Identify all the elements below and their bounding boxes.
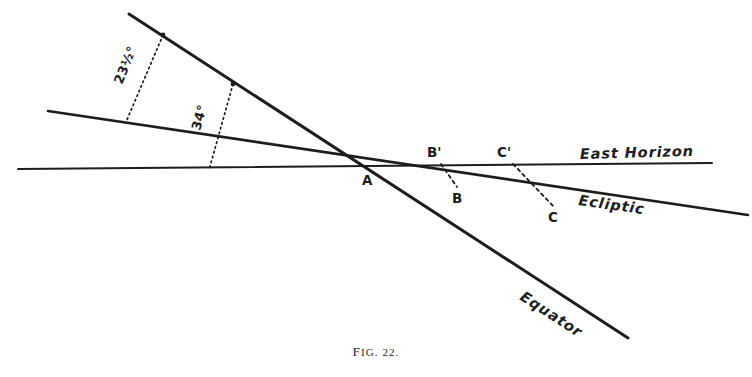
equator-tick-dot-23-half	[161, 33, 166, 38]
point-c-label: C	[548, 209, 558, 225]
point-a-label: A	[362, 172, 373, 188]
angle-23-half-label-group: 23½°	[111, 44, 140, 86]
equator-label: Equator	[517, 288, 585, 340]
angle-34-label: 34°	[188, 103, 210, 132]
point-b-prime-label: B'	[427, 144, 441, 160]
ecliptic-label: Ecliptic	[578, 192, 646, 217]
fig-22-diagram: 23½° 34° East Horizon Ecliptic Equator A…	[0, 0, 752, 377]
angle-23-half-label: 23½°	[111, 44, 140, 86]
east-horizon-label: East Horizon	[580, 143, 694, 162]
equator-line	[129, 14, 628, 338]
connector-b-prime-to-b	[441, 164, 457, 187]
equator-tick-dot-34	[231, 82, 236, 87]
equator-label-group: Equator	[517, 288, 585, 340]
figure-caption: FIG. 22.	[0, 344, 752, 360]
angle-34-drop-line	[209, 84, 233, 170]
ecliptic-label-group: Ecliptic	[578, 192, 646, 217]
point-c-prime-label: C'	[497, 144, 511, 160]
caption-text-prefix: F	[352, 344, 361, 359]
east-horizon-label-group: East Horizon	[580, 143, 694, 162]
caption-text-rest: IG. 22.	[361, 346, 400, 358]
point-b-label: B	[452, 190, 462, 206]
figure-container: 23½° 34° East Horizon Ecliptic Equator A…	[0, 0, 752, 377]
angle-34-label-group: 34°	[188, 103, 210, 132]
